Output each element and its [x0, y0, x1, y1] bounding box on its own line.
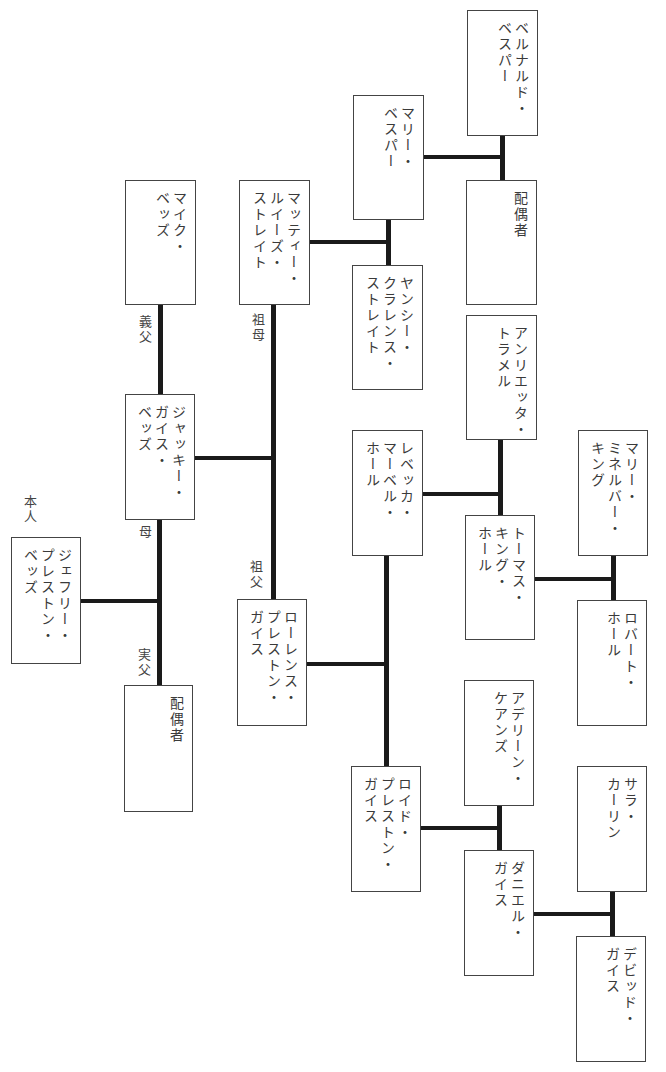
- person-name: マッティー・ ルイーズ・ ストレイト: [250, 191, 301, 287]
- label-grandmother: 祖母: [248, 313, 267, 343]
- person-name: アデリーン・ ケアンズ: [491, 691, 525, 787]
- label-self: 本人: [20, 495, 39, 525]
- person-jeffrey-bezz: ジェフリー・ プレストン・ ベッズ: [11, 537, 81, 664]
- person-name: ダニエル・ ガイス: [491, 861, 525, 941]
- person-name: ベルナルド・ ベスパー: [495, 21, 529, 117]
- connector: [424, 155, 505, 159]
- person-name: ローレンス・ プレストン・ ガイス: [247, 610, 298, 706]
- label-grandfather: 祖父: [246, 560, 265, 590]
- connector: [158, 305, 163, 394]
- person-name: ヤンシー・ クラレンス・ ストレイト: [363, 276, 414, 372]
- connector: [307, 662, 389, 666]
- person-yancey-straight: ヤンシー・ クラレンス・ ストレイト: [352, 265, 423, 390]
- person-mike-bezz: マイク・ ベッズ: [125, 180, 196, 305]
- person-name: アンリエッタ・ トラメル: [494, 326, 528, 438]
- person-bernardo-vesper: ベルナルド・ ベスパー: [467, 10, 538, 136]
- person-name: レベッカ・ マーベル・ ホール: [363, 441, 414, 521]
- person-mary-vesper: マリー・ ベスパー: [353, 95, 424, 220]
- person-name: マリー・ ベスパー: [381, 106, 415, 170]
- person-thomas-hall: トーマス・ キング・ ホール: [465, 515, 535, 640]
- label-biological-father: 実父: [134, 648, 153, 678]
- connector: [535, 577, 616, 581]
- person-name: デビッド・ ガイス: [603, 947, 637, 1027]
- person-name: 配偶者: [511, 191, 528, 239]
- person-name: マイク・ ベッズ: [153, 191, 187, 255]
- person-name: ロバート・ ホール: [604, 611, 638, 691]
- person-rebecca-hall: レベッカ・ マーベル・ ホール: [352, 430, 423, 556]
- person-sarah-carlin: サラ・ カーリン: [577, 766, 647, 892]
- person-henrietta-trammell: アンリエッタ・ トラメル: [466, 315, 537, 440]
- person-spouse-top: 配偶者: [466, 180, 537, 305]
- connector: [423, 492, 503, 496]
- connector: [498, 440, 503, 515]
- person-name: ジャッキー・ ガイス・ ベッズ: [135, 405, 186, 501]
- connector: [81, 599, 162, 603]
- person-david-geis: デビッド・ ガイス: [576, 936, 646, 1062]
- label-stepfather: 義父: [135, 315, 154, 345]
- person-jackie-bezz: ジャッキー・ ガイス・ ベッズ: [125, 394, 195, 520]
- connector: [421, 826, 502, 830]
- person-name: マリー・ ミネルバー・ キング: [588, 441, 639, 537]
- person-name: 配偶者: [167, 696, 184, 744]
- connector: [384, 556, 389, 766]
- connector: [534, 912, 615, 916]
- person-daniel-geis: ダニエル・ ガイス: [464, 850, 534, 976]
- person-name: ロイド・ プレストン・ ガイス: [361, 777, 412, 873]
- person-robert-hall: ロバート・ ホール: [577, 600, 647, 726]
- person-name: トーマス・ キング・ ホール: [475, 526, 526, 606]
- person-spouse-bottom: 配偶者: [124, 685, 193, 812]
- connector: [310, 240, 391, 244]
- person-lawrence-geis: ローレンス・ プレストン・ ガイス: [237, 599, 307, 726]
- person-mary-minerva-king: マリー・ ミネルバー・ キング: [578, 430, 648, 556]
- person-name: サラ・ カーリン: [604, 777, 638, 841]
- person-adeline-cairns: アデリーン・ ケアンズ: [464, 680, 534, 806]
- person-name: ジェフリー・ プレストン・ ベッズ: [21, 548, 72, 644]
- person-mattie-straight: マッティー・ ルイーズ・ ストレイト: [239, 180, 310, 305]
- connector: [195, 456, 276, 460]
- person-lloyd-geis: ロイド・ プレストン・ ガイス: [351, 766, 421, 892]
- label-mother: 母: [135, 525, 154, 540]
- connector: [271, 305, 276, 599]
